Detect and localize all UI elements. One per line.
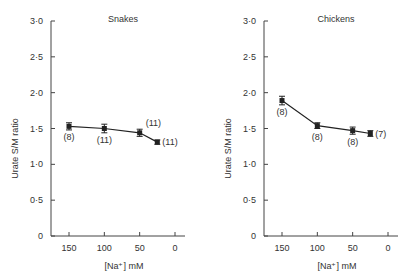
snakes-data-point <box>155 140 160 145</box>
snakes-y-tick-label: 0 <box>38 231 43 241</box>
chickens-data-point <box>350 128 355 133</box>
chickens-x-axis-label: [Na⁺] mM <box>317 261 356 271</box>
snakes-y-tick-label: 3·0 <box>30 16 43 26</box>
chickens-y-tick-label: 1·5 <box>243 124 256 134</box>
chickens-x-tick-label: 150 <box>274 243 289 253</box>
chickens-y-tick-label: 0 <box>251 231 256 241</box>
snakes-n-label: (8) <box>64 132 75 142</box>
snakes-n-label: (11) <box>146 118 161 128</box>
chickens-series-line <box>282 101 370 134</box>
snakes-x-tick-label: 100 <box>97 243 112 253</box>
chickens-y-tick-label: 0·5 <box>243 195 256 205</box>
snakes-y-axis-label: Urate S/M ratio <box>10 118 20 179</box>
chickens-data-point <box>368 131 373 136</box>
chickens-y-tick-label: 1·0 <box>243 159 256 169</box>
snakes-x-tick-label: 50 <box>135 243 145 253</box>
snakes-y-tick-label: 1·5 <box>30 124 43 134</box>
chickens-n-label: (8) <box>277 107 288 117</box>
chickens-n-label: (8) <box>347 137 358 147</box>
chickens-y-tick-label: 2·0 <box>243 88 256 98</box>
chickens-n-label: (7) <box>375 129 386 139</box>
chickens-x-tick-label: 100 <box>310 243 325 253</box>
snakes-y-tick-label: 2·5 <box>30 52 43 62</box>
snakes-data-point <box>102 126 107 131</box>
chickens-x-tick-label: 0 <box>385 243 390 253</box>
snakes-n-label: (11) <box>162 137 177 147</box>
snakes-y-tick-label: 0·5 <box>30 195 43 205</box>
chickens-y-tick-label: 2·5 <box>243 52 256 62</box>
chickens-x-tick-label: 50 <box>348 243 358 253</box>
snakes-x-tick-label: 0 <box>172 243 177 253</box>
snakes-y-tick-label: 2·0 <box>30 88 43 98</box>
snakes-series-line <box>69 126 157 142</box>
snakes-data-point <box>137 130 142 135</box>
snakes-x-tick-label: 150 <box>61 243 76 253</box>
chickens-y-axis-label: Urate S/M ratio <box>223 118 233 179</box>
snakes-title: Snakes <box>108 14 139 24</box>
chart-figure: 00·51·01·52·02·53·0150100500[Na⁺] mMUrat… <box>0 0 404 280</box>
snakes-data-point <box>67 124 72 129</box>
chickens-data-point <box>280 98 285 103</box>
chickens-title: Chickens <box>317 14 355 24</box>
snakes-x-axis-label: [Na⁺] mM <box>104 261 143 271</box>
snakes-y-tick-label: 1·0 <box>30 159 43 169</box>
chickens-n-label: (8) <box>312 132 323 142</box>
chickens-y-tick-label: 3·0 <box>243 16 256 26</box>
snakes-n-label: (11) <box>97 135 112 145</box>
chickens-data-point <box>315 123 320 128</box>
